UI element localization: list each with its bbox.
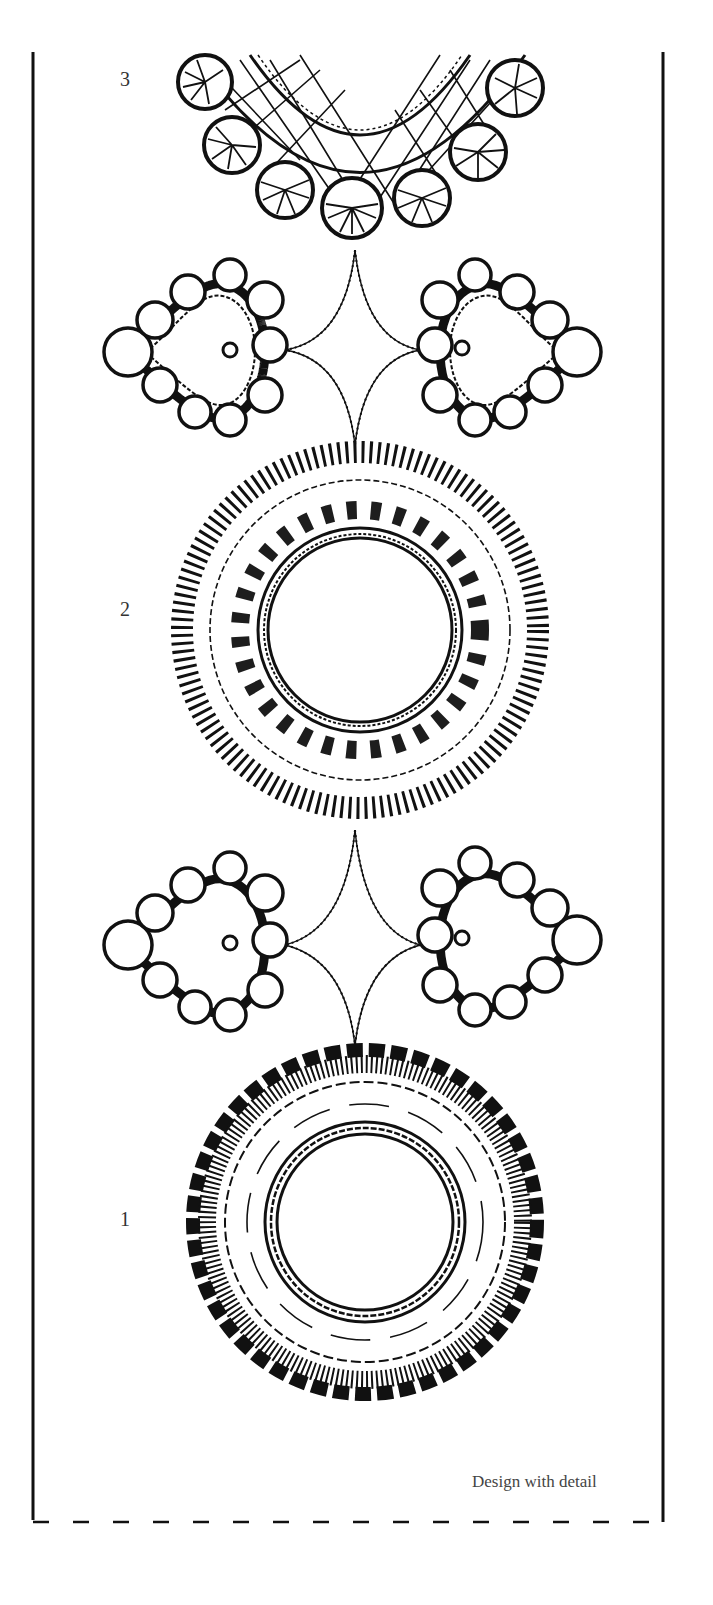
scalloped-collar-3 — [178, 55, 543, 238]
page-caption: Design with detail — [472, 1472, 597, 1492]
scalloped-ring-1 — [193, 1050, 537, 1394]
motif-number-label: 3 — [120, 68, 130, 91]
heart-pair-top — [104, 250, 601, 445]
motif-number-label: 2 — [120, 598, 130, 621]
motif-number-label: 1 — [120, 1208, 130, 1231]
lace-pattern-sheet: 3 2 1 Design with detail — [0, 0, 713, 1605]
pattern-drawing — [0, 0, 713, 1605]
rayed-ring-2 — [182, 452, 538, 808]
heart-pair-bottom — [104, 830, 601, 1045]
